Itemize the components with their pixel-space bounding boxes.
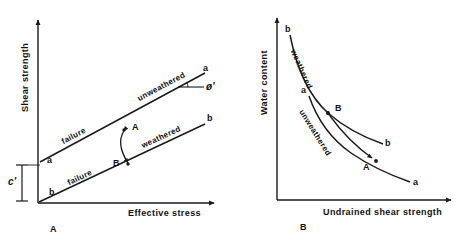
panel-a-label: A [50, 224, 57, 234]
panel-b-label-a-top: a [301, 85, 306, 95]
panel-a-label-b-right: b [207, 113, 213, 123]
panel-b-label-b-end: b [385, 138, 391, 148]
panel-a-graphic [0, 0, 233, 241]
panel-a: Shear strength Effective stress unweathe… [0, 0, 233, 241]
panel-a-point-a-marker [122, 128, 125, 131]
panel-a-phi-label: ø' [206, 81, 215, 92]
panel-a-point-a-label: A [132, 122, 139, 132]
panel-a-y-axis-title: Shear strength [20, 43, 30, 112]
panel-a-x-axis-title: Effective stress [128, 208, 201, 218]
panel-a-label-b-left: b [49, 187, 55, 197]
panel-a-unweathered-line [40, 73, 205, 162]
panel-b-y-axis-title: Water content [259, 50, 269, 115]
panel-b-label-b-top: b [285, 24, 291, 34]
panel-b-point-a-marker [374, 159, 378, 163]
panel-a-point-b-label: B [113, 158, 120, 168]
panel-b-label-a-end: a [413, 177, 418, 187]
panel-b-point-b-label: B [335, 103, 342, 113]
panel-a-point-b-marker [126, 162, 129, 165]
panel-b-graphic [233, 0, 466, 241]
figure-container: Shear strength Effective stress unweathe… [0, 0, 466, 241]
panel-a-cohesion-label: c' [8, 176, 16, 187]
panel-b-point-a-label: A [363, 162, 370, 172]
panel-a-label-a-left: a [47, 155, 52, 165]
panel-b-x-axis-title: Undrained shear strength [323, 207, 442, 217]
panel-b: Water content Undrained shear strength w… [233, 0, 466, 241]
panel-b-label: B [300, 222, 307, 232]
panel-b-point-b-marker [326, 111, 330, 115]
panel-a-transition-arrow [121, 131, 128, 163]
panel-a-label-a-right: a [203, 63, 208, 73]
